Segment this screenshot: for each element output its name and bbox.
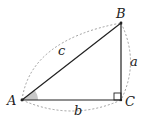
vertex-b-dot: [120, 22, 123, 25]
triangle-outline: [22, 23, 121, 100]
vertex-c-dot: [120, 99, 122, 101]
right-triangle-diagram: B A C c a b: [0, 0, 149, 121]
vertex-label-b: B: [115, 6, 126, 21]
side-label-c: c: [58, 43, 66, 58]
vertex-label-a: A: [6, 93, 16, 108]
vertex-label-c: C: [125, 94, 135, 109]
vertex-a-dot: [21, 99, 24, 102]
side-b-arc: [22, 100, 121, 111]
right-angle-marker: [114, 93, 121, 100]
side-label-b: b: [74, 103, 82, 118]
side-label-a: a: [130, 54, 138, 69]
triangle-svg: B A C c a b: [0, 0, 149, 121]
